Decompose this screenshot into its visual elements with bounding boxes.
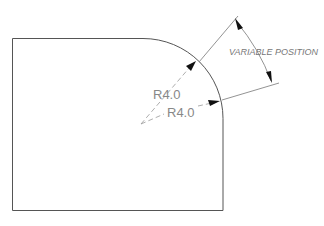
arrow-head-icon [186, 61, 196, 71]
radius-label-lower: R4.0 [167, 105, 194, 120]
variable-position-label: VARIABLE POSITION [229, 47, 319, 57]
arrow-head-icon [208, 100, 220, 106]
arrow-head-icon [235, 18, 243, 30]
extension-line-lower [222, 83, 279, 100]
technical-drawing: R4.0 R4.0 VARIABLE POSITION [0, 0, 324, 226]
arrow-head-icon [266, 71, 272, 83]
radius-label-upper: R4.0 [153, 87, 180, 102]
